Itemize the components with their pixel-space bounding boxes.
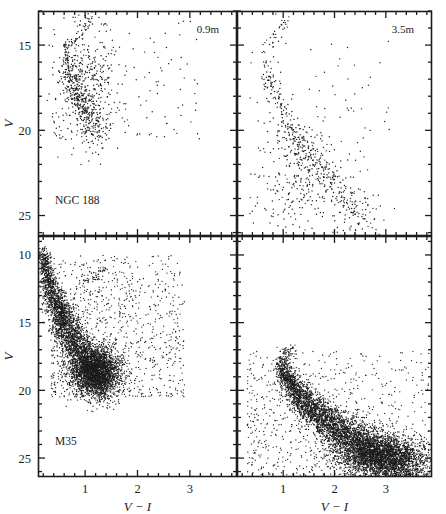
y-tick-label: 20: [19, 124, 32, 138]
axis-ticks: [237, 11, 432, 236]
cmd-figure: 1520250.9mNGC 188V3.5m10152025123M35VV −…: [0, 0, 446, 514]
x-axis-title: V − I: [124, 499, 152, 514]
y-tick-label: 10: [19, 248, 32, 262]
scatter-points: [40, 11, 200, 165]
x-tick-label: 2: [134, 482, 140, 496]
cmd-panel-ngc188-3.5m: 3.5m: [237, 11, 432, 236]
scatter-points: [247, 344, 432, 477]
cmd-panel-m35-3.5m: 123V − I: [237, 236, 432, 514]
panel-frame: [238, 12, 432, 236]
cmd-figure-svg: 1520250.9mNGC 188V3.5m10152025123M35VV −…: [0, 0, 446, 514]
y-axis-title: V: [1, 117, 16, 127]
scatter-points: [38, 246, 185, 412]
cluster-label: NGC 188: [55, 194, 100, 206]
scatter-points: [249, 13, 395, 236]
telescope-label: 0.9m: [197, 23, 220, 35]
y-tick-label: 15: [19, 39, 32, 53]
cluster-label: M35: [55, 435, 77, 447]
cmd-panel-m35-0.9m: 10152025123M35VV − I: [1, 236, 237, 514]
y-tick-label: 25: [19, 452, 32, 466]
y-tick-label: 15: [19, 316, 32, 330]
y-tick-label: 20: [19, 384, 32, 398]
x-axis-title: V − I: [321, 499, 349, 514]
y-tick-label: 25: [19, 209, 32, 223]
x-tick-label: 3: [383, 482, 389, 496]
x-tick-label: 3: [187, 482, 193, 496]
x-tick-label: 1: [280, 482, 286, 496]
telescope-label: 3.5m: [392, 23, 415, 35]
y-axis-title: V: [1, 350, 16, 360]
cmd-panel-ngc188-0.9m: 1520250.9mNGC 188V: [1, 11, 237, 236]
x-tick-label: 1: [82, 482, 88, 496]
x-tick-label: 2: [331, 482, 337, 496]
